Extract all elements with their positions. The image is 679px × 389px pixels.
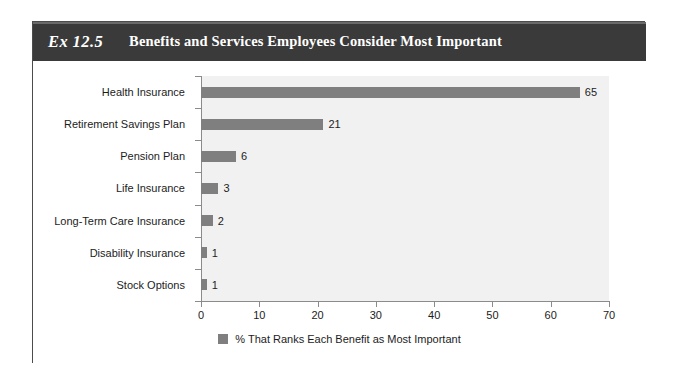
bar-value-label: 2 — [218, 215, 224, 227]
bar-row: 1 — [201, 269, 609, 301]
exhibit-title: Benefits and Services Employees Consider… — [129, 33, 502, 50]
value-axis-line — [201, 301, 610, 302]
bars-layer: 652163211 — [201, 76, 609, 301]
value-tick-label: 0 — [198, 309, 204, 321]
bar — [201, 151, 236, 162]
bar-row: 1 — [201, 237, 609, 269]
value-tick-mark — [318, 302, 319, 307]
bar-row: 65 — [201, 76, 609, 108]
bar — [201, 279, 207, 290]
bar — [201, 247, 207, 258]
legend-label: % That Ranks Each Benefit as Most Import… — [235, 333, 460, 345]
bar-value-label: 1 — [212, 279, 218, 291]
value-tick-mark — [201, 302, 202, 307]
value-tick-label: 30 — [370, 309, 382, 321]
bar-row: 2 — [201, 205, 609, 237]
bar-value-label: 65 — [585, 86, 597, 98]
value-tick-label: 50 — [486, 309, 498, 321]
value-tick-label: 70 — [603, 309, 615, 321]
bar — [201, 119, 323, 130]
value-tick-label: 20 — [311, 309, 323, 321]
value-tick-mark — [609, 302, 610, 307]
exhibit-header-band: Ex 12.5 Benefits and Services Employees … — [33, 22, 646, 61]
category-label: Health Insurance — [33, 76, 195, 108]
bar — [201, 183, 218, 194]
legend-swatch-icon — [218, 334, 228, 344]
category-axis-labels: Health InsuranceRetirement Savings PlanP… — [33, 76, 195, 301]
value-tick-mark — [434, 302, 435, 307]
value-tick-mark — [492, 302, 493, 307]
value-tick-label: 60 — [545, 309, 557, 321]
chart-legend: % That Ranks Each Benefit as Most Import… — [33, 333, 646, 345]
bar-value-label: 1 — [212, 247, 218, 259]
bar-value-label: 3 — [223, 182, 229, 194]
value-tick-mark — [376, 302, 377, 307]
exhibit-card: Ex 12.5 Benefits and Services Employees … — [32, 21, 645, 363]
value-tick-mark — [551, 302, 552, 307]
bar-value-label: 21 — [328, 118, 340, 130]
bar-row: 6 — [201, 140, 609, 172]
category-label: Life Insurance — [33, 172, 195, 204]
value-tick-label: 40 — [428, 309, 440, 321]
exhibit-number-label: Ex 12.5 — [48, 32, 103, 52]
bar-row: 21 — [201, 108, 609, 140]
bar-value-label: 6 — [241, 150, 247, 162]
category-label: Retirement Savings Plan — [33, 108, 195, 140]
bar — [201, 215, 213, 226]
category-label: Disability Insurance — [33, 237, 195, 269]
bar-row: 3 — [201, 172, 609, 204]
value-tick-mark — [259, 302, 260, 307]
chart-body: Health InsuranceRetirement Savings PlanP… — [33, 61, 646, 363]
value-tick-label: 10 — [253, 309, 265, 321]
bar — [201, 87, 580, 98]
category-label: Pension Plan — [33, 140, 195, 172]
category-label: Stock Options — [33, 269, 195, 301]
category-label: Long-Term Care Insurance — [33, 205, 195, 237]
